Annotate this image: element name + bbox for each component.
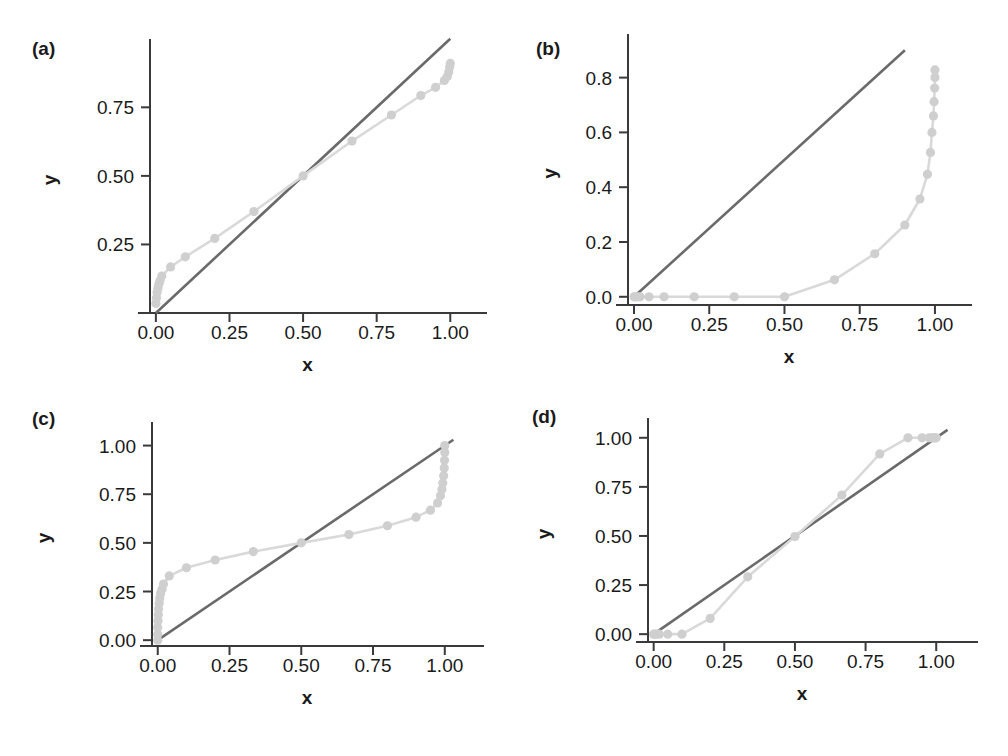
x-tick-label: 0.00 xyxy=(635,651,672,672)
data-point-marker xyxy=(181,252,190,261)
data-point-marker xyxy=(870,249,879,258)
figure-panel-grid: (a) 0.000.250.500.751.000.250.500.75xy (… xyxy=(0,0,1008,756)
data-point-marker xyxy=(837,491,846,500)
y-tick-label: 0.00 xyxy=(99,630,136,651)
data-point-marker xyxy=(875,449,884,458)
panel-d-plot: 0.000.250.500.751.000.000.250.500.751.00… xyxy=(504,378,1008,756)
data-point-marker xyxy=(927,128,936,137)
x-axis-title: x xyxy=(302,687,313,708)
x-tick-label: 0.75 xyxy=(355,655,392,676)
panel-d: (d) 0.000.250.500.751.000.000.250.500.75… xyxy=(504,378,1008,756)
data-point-marker xyxy=(446,59,455,68)
data-point-marker xyxy=(347,136,356,145)
panel-c-plot: 0.000.250.500.751.000.000.250.500.751.00… xyxy=(0,378,504,756)
x-tick-label: 0.00 xyxy=(616,314,653,335)
x-tick-label: 1.00 xyxy=(432,322,469,343)
x-tick-label: 0.75 xyxy=(847,651,884,672)
data-point-marker xyxy=(440,441,449,450)
x-tick-label: 0.50 xyxy=(776,651,813,672)
x-tick-label: 1.00 xyxy=(918,651,955,672)
x-axis-title: x xyxy=(797,683,808,704)
data-point-marker xyxy=(210,234,219,243)
y-tick-label: 0.50 xyxy=(99,533,136,554)
data-point-marker xyxy=(830,275,839,284)
x-tick-label: 1.00 xyxy=(426,655,463,676)
y-tick-label: 1.00 xyxy=(99,436,136,457)
y-tick-label: 0.6 xyxy=(586,122,612,143)
x-tick-label: 0.00 xyxy=(137,322,174,343)
data-point-marker xyxy=(900,220,909,229)
x-axis-title: x xyxy=(784,346,795,367)
y-axis-title: y xyxy=(539,168,560,179)
identity-reference-line xyxy=(158,440,454,640)
x-tick-label: 0.75 xyxy=(358,322,395,343)
panel-label-d: (d) xyxy=(532,406,556,428)
data-point-marker xyxy=(426,506,435,515)
x-tick-label: 1.00 xyxy=(916,314,953,335)
data-point-marker xyxy=(790,532,799,541)
data-point-marker xyxy=(383,521,392,530)
y-tick-label: 0.2 xyxy=(586,232,612,253)
data-point-marker xyxy=(159,580,168,589)
data-point-marker xyxy=(644,292,653,301)
data-point-marker xyxy=(344,530,353,539)
data-point-marker xyxy=(166,262,175,271)
y-axis-title: y xyxy=(39,174,60,185)
data-point-marker xyxy=(249,547,258,556)
data-point-marker xyxy=(743,572,752,581)
x-tick-label: 0.00 xyxy=(139,655,176,676)
x-axis-title: x xyxy=(302,354,313,375)
y-axis-title: y xyxy=(533,528,554,539)
y-tick-label: 1.00 xyxy=(595,428,632,449)
y-axis-title: y xyxy=(33,532,54,543)
data-point-marker xyxy=(663,630,672,639)
x-tick-label: 0.50 xyxy=(285,322,322,343)
panel-label-a: (a) xyxy=(32,38,55,60)
data-point-marker xyxy=(416,91,425,100)
y-tick-label: 0.25 xyxy=(99,582,136,603)
data-point-marker xyxy=(929,97,938,106)
data-point-marker xyxy=(635,292,644,301)
y-tick-label: 0.75 xyxy=(595,477,632,498)
panel-label-c: (c) xyxy=(32,408,55,430)
data-point-marker xyxy=(706,614,715,623)
data-series-line xyxy=(634,70,935,297)
x-tick-label: 0.50 xyxy=(766,314,803,335)
data-point-marker xyxy=(926,148,935,157)
data-point-marker xyxy=(298,171,307,180)
x-tick-label: 0.25 xyxy=(211,322,248,343)
data-point-marker xyxy=(930,65,939,74)
data-point-marker xyxy=(930,83,939,92)
data-point-marker xyxy=(431,83,440,92)
y-tick-label: 0.50 xyxy=(97,166,134,187)
data-point-marker xyxy=(387,110,396,119)
data-point-marker xyxy=(249,207,258,216)
data-point-marker xyxy=(182,563,191,572)
data-point-marker xyxy=(903,433,912,442)
y-tick-label: 0.0 xyxy=(586,287,612,308)
panel-c: (c) 0.000.250.500.751.000.000.250.500.75… xyxy=(0,378,504,756)
data-point-marker xyxy=(165,571,174,580)
x-tick-label: 0.50 xyxy=(283,655,320,676)
y-tick-label: 0.25 xyxy=(97,234,134,255)
data-point-marker xyxy=(730,292,739,301)
data-point-marker xyxy=(677,630,686,639)
data-point-marker xyxy=(932,433,941,442)
y-tick-label: 0.75 xyxy=(97,97,134,118)
x-tick-label: 0.75 xyxy=(841,314,878,335)
data-point-marker xyxy=(655,630,664,639)
panel-b-plot: 0.000.250.500.751.000.00.20.40.60.8xy xyxy=(504,0,1008,378)
panel-a: (a) 0.000.250.500.751.000.250.500.75xy xyxy=(0,0,504,378)
panel-b: (b) 0.000.250.500.751.000.00.20.40.60.8x… xyxy=(504,0,1008,378)
panel-label-b: (b) xyxy=(536,38,560,60)
y-tick-label: 0.75 xyxy=(99,484,136,505)
x-tick-label: 0.25 xyxy=(211,655,248,676)
x-tick-label: 0.25 xyxy=(691,314,728,335)
panel-a-plot: 0.000.250.500.751.000.250.500.75xy xyxy=(0,0,504,378)
data-point-marker xyxy=(157,271,166,280)
y-tick-label: 0.25 xyxy=(595,575,632,596)
y-tick-label: 0.8 xyxy=(586,68,612,89)
x-tick-label: 0.25 xyxy=(706,651,743,672)
data-point-marker xyxy=(923,170,932,179)
y-tick-label: 0.4 xyxy=(586,177,613,198)
